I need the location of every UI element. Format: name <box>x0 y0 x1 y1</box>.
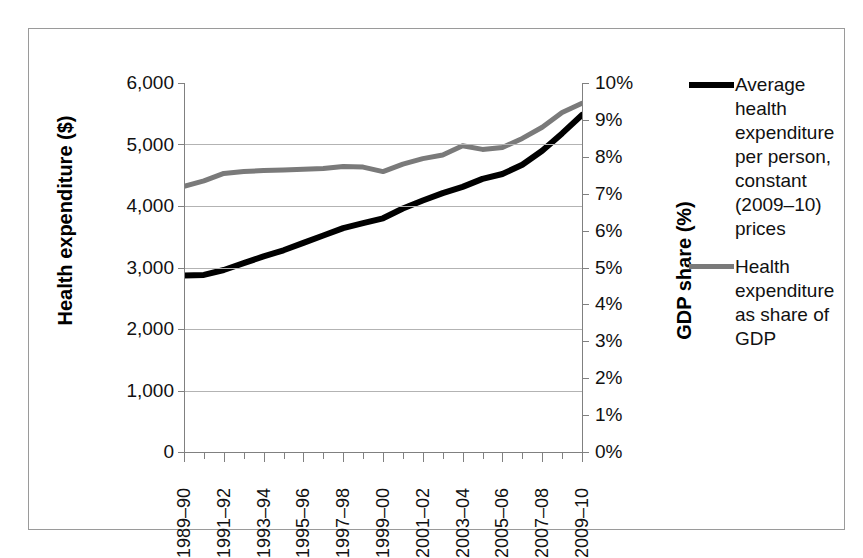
legend-entry: Health expenditure as share of GDP <box>689 255 839 351</box>
gridline <box>184 206 582 207</box>
y-axis-right-tick <box>582 120 589 121</box>
y-axis-right-tick-label: 7% <box>595 184 665 203</box>
x-axis-tick <box>224 453 225 462</box>
y-axis-right-tick <box>582 378 589 379</box>
x-axis-tick <box>343 453 344 462</box>
y-axis-right-tick-label: 5% <box>595 258 665 277</box>
gridline <box>184 329 582 330</box>
y-axis-right-tick <box>582 341 589 342</box>
y-axis-left-tick <box>178 268 185 269</box>
y-axis-left-tick-label: 0 <box>74 442 174 461</box>
y-axis-left-tick-label: 4,000 <box>74 196 174 215</box>
y-axis-right-tick-label: 8% <box>595 147 665 166</box>
y-axis-left-title: Health expenditure ($) <box>54 81 77 361</box>
y-axis-left-tick <box>178 391 185 392</box>
x-axis-tick <box>184 453 185 462</box>
x-axis-tick <box>204 453 205 459</box>
y-axis-right-tick <box>582 194 589 195</box>
legend-label: Health expenditure as share of GDP <box>735 255 839 351</box>
y-axis-left-tick-label: 1,000 <box>74 381 174 400</box>
y-axis-right-tick-label: 4% <box>595 294 665 313</box>
x-axis-tick <box>502 453 503 462</box>
x-axis-tick-label: 1999–00 <box>373 463 393 558</box>
x-axis-tick <box>383 453 384 462</box>
x-axis-tick <box>403 453 404 459</box>
x-axis-tick-label: 1997–98 <box>333 463 353 558</box>
x-axis-tick-label: 1989–90 <box>174 463 194 558</box>
x-axis-tick-label: 1995–96 <box>293 463 313 558</box>
x-axis-tick <box>244 453 245 459</box>
y-axis-right-tick-label: 1% <box>595 405 665 424</box>
x-axis-tick <box>522 453 523 459</box>
gridline <box>184 268 582 269</box>
y-axis-left-tick <box>178 83 185 84</box>
y-axis-left-tick-label: 2,000 <box>74 319 174 338</box>
x-axis-tick-label: 2009–10 <box>572 463 592 558</box>
x-axis-tick <box>443 453 444 459</box>
x-axis-tick-label: 2001–02 <box>413 463 433 558</box>
y-axis-left-tick <box>178 206 185 207</box>
y-axis-right-tick-label: 2% <box>595 368 665 387</box>
x-axis-tick-label: 1991–92 <box>214 463 234 558</box>
x-axis-tick-label: 2007–08 <box>532 463 552 558</box>
y-axis-right-tick <box>582 304 589 305</box>
y-axis-left-tick-label: 3,000 <box>74 258 174 277</box>
y-axis-left-tick-label: 6,000 <box>74 73 174 92</box>
x-axis-tick-label: 1993–94 <box>254 463 274 558</box>
legend-line-swatch <box>689 264 734 269</box>
y-axis-right-tick-label: 0% <box>595 442 665 461</box>
x-axis-tick <box>303 453 304 462</box>
y-axis-right-tick-label: 6% <box>595 221 665 240</box>
x-axis-tick <box>483 453 484 459</box>
x-axis-tick <box>562 453 563 459</box>
y-axis-left-tick <box>178 144 185 145</box>
chart-figure-frame: 6,0005,0004,0003,0002,0001,0000 10%9%8%7… <box>28 28 845 530</box>
y-axis-left-tick <box>178 452 185 453</box>
legend-entry: Average health expenditure per person, c… <box>689 73 839 241</box>
legend-line-swatch <box>689 82 734 88</box>
gridline <box>184 144 582 145</box>
y-axis-left-tick <box>178 329 185 330</box>
y-axis-right-tick <box>582 415 589 416</box>
y-axis-right-tick-label: 9% <box>595 110 665 129</box>
x-axis-tick <box>363 453 364 459</box>
chart-legend: Average health expenditure per person, c… <box>689 73 839 365</box>
x-axis-tick <box>323 453 324 459</box>
x-axis-tick <box>284 453 285 459</box>
y-axis-right-tick-label: 10% <box>595 73 665 92</box>
legend-label: Average health expenditure per person, c… <box>735 73 839 241</box>
x-axis-tick-label: 2005–06 <box>492 463 512 558</box>
y-axis-right-tick <box>582 231 589 232</box>
x-axis-tick <box>264 453 265 462</box>
y-axis-left-tick-labels: 6,0005,0004,0003,0002,0001,0000 <box>69 29 174 531</box>
scan-artifact-strip <box>0 0 863 12</box>
y-axis-right-tick <box>582 157 589 158</box>
x-axis-tick <box>423 453 424 462</box>
gridline <box>184 391 582 392</box>
y-axis-right-tick-label: 3% <box>595 331 665 350</box>
y-axis-right-tick <box>582 83 589 84</box>
x-axis-tick <box>582 453 583 462</box>
y-axis-right-tick-labels: 10%9%8%7%6%5%4%3%2%1%0% <box>595 29 670 531</box>
y-axis-right-tick <box>582 268 589 269</box>
y-axis-right-tick <box>582 452 589 453</box>
y-axis-left-tick-label: 5,000 <box>74 135 174 154</box>
x-axis-tick-label: 2003–04 <box>453 463 473 558</box>
x-axis-tick <box>542 453 543 462</box>
x-axis-tick <box>463 453 464 462</box>
